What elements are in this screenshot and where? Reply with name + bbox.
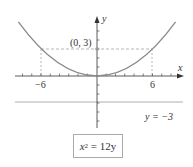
equation-lhs: x bbox=[80, 140, 85, 152]
equation-box: x2 = 12y bbox=[73, 134, 123, 158]
directrix-label: y = −3 bbox=[145, 112, 173, 122]
tick-label-neg6: −6 bbox=[35, 80, 46, 90]
y-axis bbox=[95, 16, 100, 128]
focus-point bbox=[95, 47, 99, 51]
equation-rhs: = 12y bbox=[88, 140, 116, 152]
focus-label: (0, 3) bbox=[70, 38, 92, 48]
y-axis-label: y bbox=[102, 14, 106, 24]
tick-label-pos6: 6 bbox=[150, 80, 155, 90]
x-axis-label: x bbox=[178, 63, 182, 73]
x-axis-arrow-icon bbox=[177, 74, 184, 79]
y-axis-arrow-icon bbox=[95, 16, 100, 23]
